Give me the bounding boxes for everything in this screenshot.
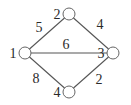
node-3-label: 3: [98, 46, 105, 61]
edge-weight-1-3: 6: [63, 37, 70, 52]
edge-weight-2-3: 4: [97, 17, 104, 32]
edge-weight-4-3: 2: [96, 72, 103, 87]
edge-2-3: [69, 14, 113, 53]
edge-weight-1-4: 8: [33, 71, 40, 86]
graph-diagram: 5 4 6 8 2 1 2 3 4: [0, 0, 131, 105]
node-1-label: 1: [10, 46, 17, 61]
node-4-circle: [63, 86, 75, 98]
node-3-circle: [107, 47, 119, 59]
node-2-label: 2: [54, 7, 61, 22]
node-2-circle: [63, 8, 75, 20]
edge-4-3: [69, 53, 113, 92]
node-4-label: 4: [54, 85, 61, 100]
edge-weights-layer: 5 4 6 8 2: [33, 17, 104, 87]
node-1-circle: [19, 47, 31, 59]
edge-weight-1-2: 5: [36, 20, 43, 35]
